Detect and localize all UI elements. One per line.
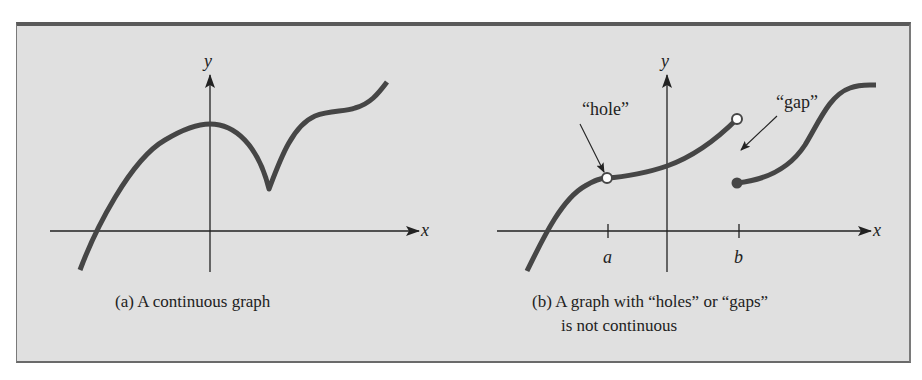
left-curve-piece xyxy=(527,119,737,271)
panel-a: x y xyxy=(50,51,429,272)
caption-b-line1: (b) A graph with “holes” or “gaps” xyxy=(532,290,768,314)
x-axis-label-b: x xyxy=(872,220,881,240)
caption-b-line2: is not continuous xyxy=(561,314,677,338)
continuous-curve xyxy=(80,82,387,270)
tick-label-b: b xyxy=(734,247,743,267)
gap-annotation: “gap” xyxy=(776,92,818,112)
gap-arrow xyxy=(741,116,777,150)
tick-label-a: a xyxy=(603,247,612,267)
hole-annotation: “hole” xyxy=(582,99,629,119)
y-axis-label-b: y xyxy=(659,51,669,71)
gap-open-circle xyxy=(732,114,742,124)
diagram-canvas: x y x y a b “hole” “gap” xyxy=(0,0,922,380)
hole-open-circle xyxy=(602,173,612,183)
y-axis-label-a: y xyxy=(202,51,212,71)
gap-filled-dot xyxy=(732,178,743,189)
panel-b: x y a b “hole” “gap” xyxy=(497,51,881,272)
caption-a: (a) A continuous graph xyxy=(115,290,270,314)
hole-arrow xyxy=(580,124,604,172)
x-axis-label-a: x xyxy=(420,220,429,240)
